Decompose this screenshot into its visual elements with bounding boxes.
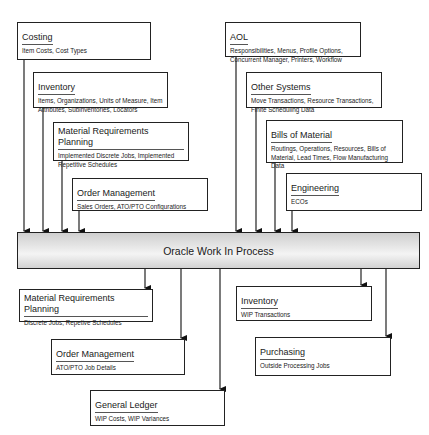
box-desc: Discrete Jobs, Repetive Schedules	[24, 319, 148, 328]
box-title: Material Requirements Planning	[58, 126, 184, 150]
output-box-order-management: Order Management ATO/PTO Job Details	[51, 339, 185, 375]
box-desc: Outside Processing Jobs	[260, 362, 386, 371]
box-title: Purchasing	[260, 347, 305, 360]
box-desc: ECOs	[291, 198, 417, 207]
output-box-mrp: Material Requirements Planning Discrete …	[19, 289, 153, 322]
input-box-bills-of-material: Bills of Material Routings, Operations, …	[266, 120, 403, 163]
box-desc: Responsibilities, Menus, Profile Options…	[230, 47, 356, 64]
box-desc: Item Costs, Cost Types	[22, 47, 146, 56]
input-box-engineering: Engineering ECOs	[286, 173, 422, 211]
box-title: Inventory	[38, 82, 75, 95]
center-label: Oracle Work In Process	[163, 245, 274, 257]
input-box-inventory: Inventory Items, Organizations, Units of…	[33, 72, 168, 108]
box-desc: WIP Transactions	[241, 311, 367, 320]
box-desc: Sales Orders, ATO/PTO Configurations	[77, 203, 203, 212]
box-desc: Items, Organizations, Units of Measure, …	[38, 97, 163, 114]
box-desc: Implemented Discrete Jobs, Implemented R…	[58, 152, 184, 169]
box-title: Inventory	[241, 296, 278, 309]
input-box-costing: Costing Item Costs, Cost Types	[17, 22, 151, 60]
input-box-mrp: Material Requirements Planning Implement…	[53, 122, 189, 161]
box-desc: Move Transactions, Resource Transactions…	[251, 97, 377, 114]
input-box-other-systems: Other Systems Move Transactions, Resourc…	[246, 72, 382, 108]
box-title: Other Systems	[251, 82, 311, 95]
output-box-inventory: Inventory WIP Transactions	[236, 286, 372, 321]
box-title: Costing	[22, 32, 53, 45]
box-title: Order Management	[77, 188, 155, 201]
box-desc: WIP Costs, WIP Variances	[95, 415, 220, 424]
oracle-wip-bar: Oracle Work In Process	[17, 232, 420, 269]
box-title: Engineering	[291, 183, 339, 196]
box-title: Material Requirements Planning	[24, 293, 148, 317]
input-box-aol: AOL Responsibilities, Menus, Profile Opt…	[225, 22, 361, 57]
box-title: AOL	[230, 32, 248, 45]
box-desc: ATO/PTO Job Details	[56, 364, 180, 373]
output-box-purchasing: Purchasing Outside Processing Jobs	[255, 337, 391, 376]
box-title: General Ledger	[95, 400, 158, 413]
input-box-order-management: Order Management Sales Orders, ATO/PTO C…	[72, 178, 208, 211]
box-desc: Routings, Operations, Resources, Bills o…	[271, 145, 398, 171]
box-title: Order Management	[56, 349, 134, 362]
box-title: Bills of Material	[271, 130, 332, 143]
output-box-general-ledger: General Ledger WIP Costs, WIP Variances	[90, 390, 225, 426]
